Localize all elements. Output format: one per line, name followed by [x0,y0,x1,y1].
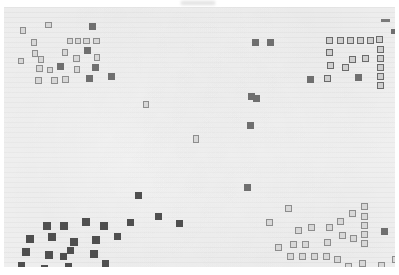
annotation-mark [377,46,384,53]
annotation-mark [38,56,44,63]
annotation-mark [65,263,72,267]
annotation-mark [361,213,368,220]
annotation-mark [45,251,53,259]
annotation-mark [323,253,330,260]
annotation-mark [285,205,292,212]
annotation-mark [376,36,383,43]
annotation-mark [339,232,346,239]
annotation-mark [143,101,149,108]
annotation-mark [18,262,25,267]
annotation-mark [90,250,98,258]
annotation-mark [357,37,364,44]
annotation-mark [324,75,331,82]
annotation-mark [326,224,333,231]
annotation-mark [135,192,142,199]
annotation-mark [266,219,273,226]
annotation-mark [18,58,24,64]
page-surface[interactable] [4,7,395,267]
annotation-mark [73,55,80,62]
annotation-mark [347,37,354,44]
annotation-mark [45,22,52,28]
document-thumbnail-view [0,0,399,275]
annotation-mark [299,253,306,260]
annotation-mark [345,263,352,267]
annotation-mark [67,38,73,44]
annotation-mark [350,235,357,242]
annotation-mark [377,64,384,71]
annotation-mark [60,222,68,230]
annotation-mark [290,241,297,248]
annotation-mark [20,27,26,34]
annotation-mark [267,39,274,46]
annotation-mark [60,253,67,260]
annotation-mark [86,75,93,82]
annotation-mark [337,218,344,225]
annotation-mark [308,224,315,231]
annotation-mark [377,73,384,80]
annotation-mark [381,228,388,235]
annotation-mark [89,23,96,30]
annotation-mark [41,265,48,267]
annotation-mark [22,248,30,256]
annotation-mark [75,38,81,44]
annotation-mark [93,38,100,44]
annotation-mark [94,54,100,61]
annotation-mark [377,82,384,89]
annotation-mark [26,235,34,243]
annotation-mark [275,244,282,251]
annotation-mark [349,210,356,217]
scan-smudge-artifact [181,1,215,5]
annotation-mark [334,256,341,263]
annotation-mark [359,260,366,267]
annotation-mark [35,77,42,84]
annotation-mark [337,37,344,44]
annotation-mark [92,64,99,71]
annotation-mark [176,220,183,227]
annotation-mark [324,239,331,246]
annotation-mark [108,73,115,80]
annotation-mark [83,38,90,44]
annotation-mark [307,76,314,83]
annotation-mark [155,213,162,220]
annotation-mark [287,253,294,260]
annotation-mark [247,122,254,129]
annotation-mark [127,219,134,226]
annotation-mark [253,95,260,102]
annotation-mark [252,39,259,46]
annotation-mark [100,222,108,230]
annotation-mark [342,64,349,71]
annotation-mark [361,231,368,238]
annotation-mark [36,65,43,72]
annotation-mark [43,222,51,230]
annotation-mark [326,49,333,56]
annotation-mark [57,63,64,70]
annotation-mark [361,203,368,210]
annotation-mark [349,56,356,63]
annotation-mark [295,227,302,234]
annotation-mark [74,66,80,73]
annotation-mark [378,262,385,267]
annotation-mark [361,240,368,247]
annotation-mark [92,236,100,244]
annotation-mark [391,29,395,34]
annotation-mark [70,238,78,246]
annotation-mark [82,218,90,226]
annotation-mark [51,77,58,84]
annotation-mark [311,253,318,260]
annotation-mark [114,233,121,240]
annotation-mark [327,62,334,69]
annotation-mark [326,37,333,44]
annotation-mark [392,256,395,263]
annotation-mark [377,55,384,62]
annotation-mark [48,233,56,241]
annotation-mark [67,247,74,254]
annotation-mark [47,67,53,73]
annotation-mark [362,55,369,62]
annotation-mark [367,37,374,44]
annotation-mark [102,260,109,267]
annotation-mark [302,241,309,248]
annotation-mark [62,76,69,83]
annotation-mark [355,74,362,81]
annotation-mark [31,39,37,46]
annotation-mark [361,222,368,229]
